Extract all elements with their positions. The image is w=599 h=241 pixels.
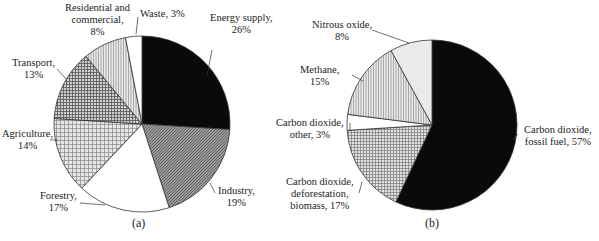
caption-b: (b)	[425, 216, 439, 231]
label-industry: Industry, 19%	[218, 185, 255, 209]
label-co2-deforestation: Carbon dioxide, deforestation, biomass, …	[286, 176, 354, 212]
label-line: Carbon dioxide,	[286, 176, 354, 188]
label-line: Nitrous oxide,	[312, 19, 372, 31]
label-agriculture: Agriculture, 14%	[2, 128, 53, 152]
pie-slice-energy-supply	[142, 36, 230, 130]
caption-a: (a)	[132, 216, 145, 231]
label-line: Forestry,	[40, 190, 77, 202]
label-co2-other: Carbon dioxide, other, 3%	[276, 117, 344, 141]
label-value: 19%	[218, 197, 255, 209]
label-line: Waste, 3%	[140, 8, 185, 20]
label-value: biomass, 17%	[286, 200, 354, 212]
pie-chart-b	[347, 40, 517, 210]
label-line: commercial,	[65, 14, 130, 26]
label-value: 8%	[312, 31, 372, 43]
label-value: 26%	[210, 24, 273, 36]
label-waste: Waste, 3%	[140, 8, 185, 20]
label-line: Carbon dioxide,	[524, 124, 592, 136]
label-line: deforestation,	[286, 188, 354, 200]
label-line: Carbon dioxide,	[276, 117, 344, 129]
label-forestry: Forestry, 17%	[40, 190, 77, 214]
label-line: Transport,	[12, 57, 55, 69]
label-line: Residential and	[65, 2, 130, 14]
label-value: other, 3%	[276, 129, 344, 141]
label-co2-fossil-fuel: Carbon dioxide, fossil fuel, 57%	[524, 124, 592, 148]
label-residential-commercial: Residential and commercial, 8%	[65, 2, 130, 38]
label-value: 13%	[12, 69, 55, 81]
label-value: 17%	[40, 202, 77, 214]
pie-chart-a	[54, 36, 230, 212]
label-value: 8%	[65, 26, 130, 38]
label-energy-supply: Energy supply, 26%	[210, 12, 273, 36]
label-transport: Transport, 13%	[12, 57, 55, 81]
label-value: 14%	[2, 140, 53, 152]
label-nitrous-oxide: Nitrous oxide, 8%	[312, 19, 372, 43]
label-value: 15%	[300, 76, 339, 88]
label-line: Energy supply,	[210, 12, 273, 24]
label-value: fossil fuel, 57%	[524, 136, 592, 148]
label-line: Industry,	[218, 185, 255, 197]
label-line: Agriculture,	[2, 128, 53, 140]
label-methane: Methane, 15%	[300, 64, 339, 88]
label-line: Methane,	[300, 64, 339, 76]
